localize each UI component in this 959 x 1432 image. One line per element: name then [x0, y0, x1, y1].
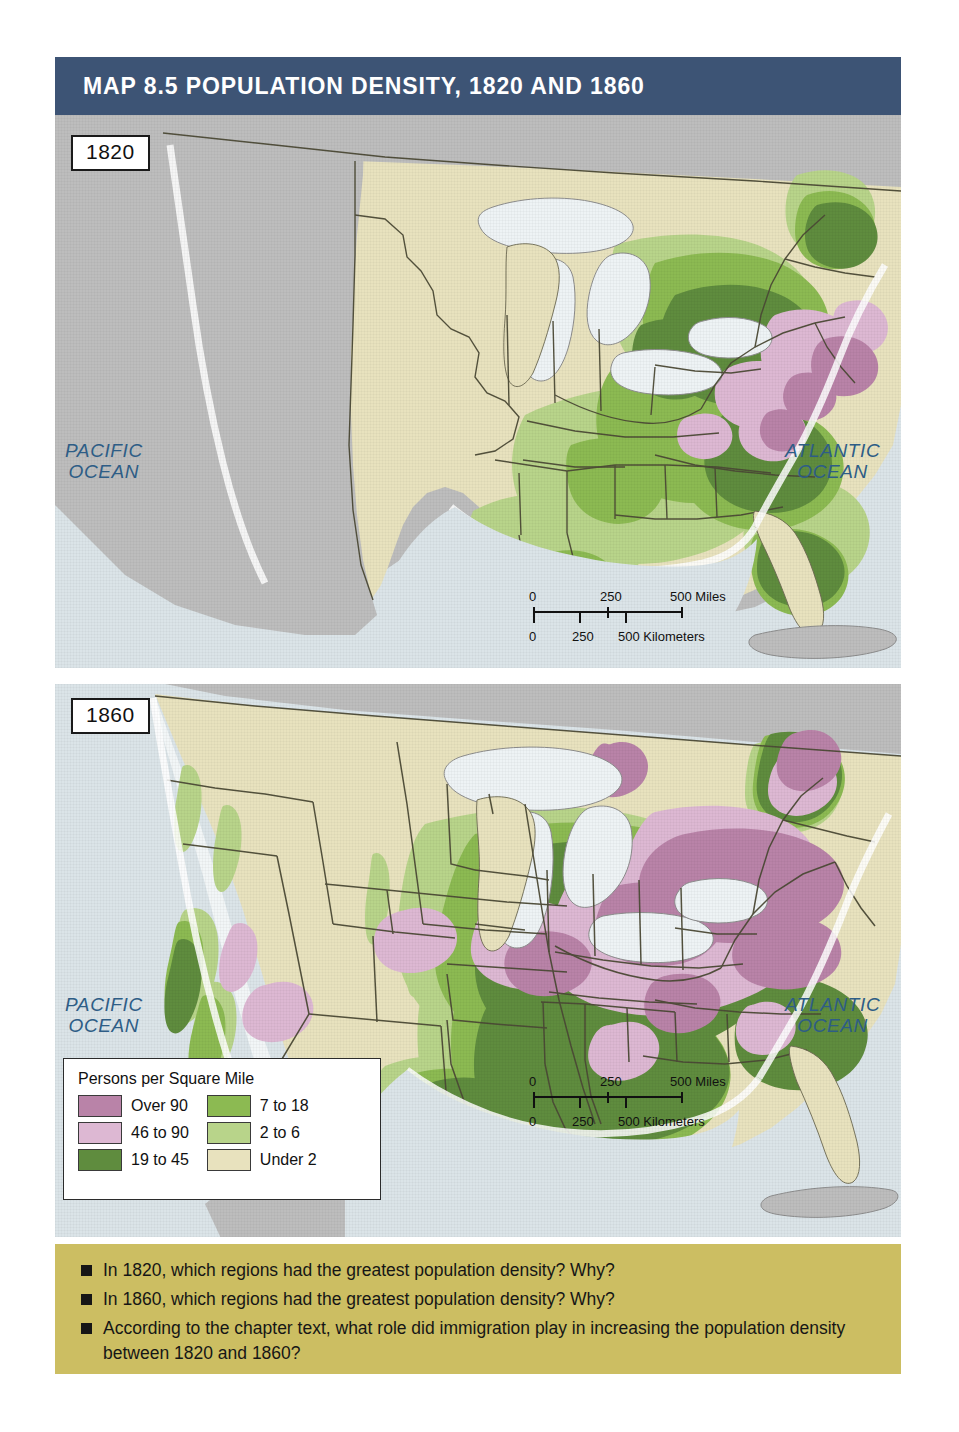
scale-miles-250: 250	[600, 589, 622, 604]
legend-column-left: Over 90 46 to 90 19 to 45	[78, 1095, 189, 1171]
legend-swatch-46-to-90	[78, 1122, 122, 1144]
page-title: MAP 8.5 POPULATION DENSITY, 1820 AND 186…	[55, 73, 645, 100]
legend-item-19-to-45: 19 to 45	[78, 1149, 189, 1171]
legend-label-under-2: Under 2	[260, 1151, 317, 1169]
atlantic-line-2: OCEAN	[785, 1015, 880, 1036]
legend-columns: Over 90 46 to 90 19 to 45 7 to 18	[78, 1095, 380, 1171]
scale-km-500: 500 Kilometers	[618, 629, 705, 644]
atlantic-line-2: OCEAN	[785, 461, 880, 482]
scale-axis-graphic	[532, 1092, 698, 1114]
legend-label-7-to-18: 7 to 18	[260, 1097, 309, 1115]
year-badge-1820: 1820	[71, 135, 150, 171]
scale-miles-0: 0	[529, 589, 536, 604]
scale-miles-500: 500 Miles	[670, 589, 726, 604]
map-figure: MAP 8.5 POPULATION DENSITY, 1820 AND 186…	[0, 0, 959, 1432]
pacific-line-1: PACIFIC	[65, 440, 143, 461]
map-legend: Persons per Square Mile Over 90 46 to 90…	[63, 1058, 381, 1200]
legend-label-2-to-6: 2 to 6	[260, 1124, 300, 1142]
scale-km-250: 250	[572, 1114, 594, 1129]
map-graphic-1820	[55, 115, 901, 668]
legend-swatch-7-to-18	[207, 1095, 251, 1117]
legend-item-7-to-18: 7 to 18	[207, 1095, 317, 1117]
legend-title: Persons per Square Mile	[78, 1070, 380, 1088]
legend-label-19-to-45: 19 to 45	[131, 1151, 189, 1169]
legend-swatch-over-90	[78, 1095, 122, 1117]
pacific-line-2: OCEAN	[65, 1015, 143, 1036]
question-item-1: In 1820, which regions had the greatest …	[81, 1258, 875, 1283]
question-text-3: According to the chapter text, what role…	[103, 1316, 875, 1366]
scale-bar-1820: 0 250 500 Miles 0 250 500 Kilometers	[532, 589, 732, 653]
scale-km-0: 0	[529, 1114, 536, 1129]
legend-swatch-under-2	[207, 1149, 251, 1171]
scale-km-500: 500 Kilometers	[618, 1114, 705, 1129]
pacific-ocean-label-1820: PACIFIC OCEAN	[65, 440, 143, 483]
map-panel-1820: 1820 PACIFIC OCEAN ATLANTIC OCEAN 0 250 …	[55, 115, 901, 668]
pacific-line-1: PACIFIC	[65, 994, 143, 1015]
pacific-line-2: OCEAN	[65, 461, 143, 482]
scale-miles-labels: 0 250 500 Miles	[532, 1074, 732, 1090]
year-badge-1860: 1860	[71, 698, 150, 734]
atlantic-ocean-label-1820: ATLANTIC OCEAN	[785, 440, 880, 483]
atlantic-line-1: ATLANTIC	[785, 440, 880, 461]
question-text-2: In 1860, which regions had the greatest …	[103, 1287, 615, 1312]
legend-swatch-2-to-6	[207, 1122, 251, 1144]
scale-axis-graphic	[532, 607, 698, 629]
question-item-2: In 1860, which regions had the greatest …	[81, 1287, 875, 1312]
legend-item-under-2: Under 2	[207, 1149, 317, 1171]
scale-miles-500: 500 Miles	[670, 1074, 726, 1089]
bullet-square-icon	[81, 1294, 92, 1305]
legend-item-46-to-90: 46 to 90	[78, 1122, 189, 1144]
scale-bar-1860: 0 250 500 Miles 0 250 500 Kilometers	[532, 1074, 732, 1138]
scale-km-0: 0	[529, 629, 536, 644]
atlantic-ocean-label-1860: ATLANTIC OCEAN	[785, 994, 880, 1037]
scale-km-250: 250	[572, 629, 594, 644]
legend-label-46-to-90: 46 to 90	[131, 1124, 189, 1142]
scale-miles-labels: 0 250 500 Miles	[532, 589, 732, 605]
legend-label-over-90: Over 90	[131, 1097, 188, 1115]
scale-miles-0: 0	[529, 1074, 536, 1089]
map-title-bar: MAP 8.5 POPULATION DENSITY, 1820 AND 186…	[55, 57, 901, 115]
question-item-3: According to the chapter text, what role…	[81, 1316, 875, 1366]
legend-swatch-19-to-45	[78, 1149, 122, 1171]
legend-item-2-to-6: 2 to 6	[207, 1122, 317, 1144]
bullet-square-icon	[81, 1265, 92, 1276]
question-text-1: In 1820, which regions had the greatest …	[103, 1258, 615, 1283]
legend-column-right: 7 to 18 2 to 6 Under 2	[207, 1095, 317, 1171]
legend-item-over-90: Over 90	[78, 1095, 189, 1117]
map-panel-1860: 1860 PACIFIC OCEAN ATLANTIC OCEAN Person…	[55, 684, 901, 1237]
scale-miles-250: 250	[600, 1074, 622, 1089]
atlantic-line-1: ATLANTIC	[785, 994, 880, 1015]
questions-box: In 1820, which regions had the greatest …	[55, 1244, 901, 1374]
pacific-ocean-label-1860: PACIFIC OCEAN	[65, 994, 143, 1037]
bullet-square-icon	[81, 1323, 92, 1334]
